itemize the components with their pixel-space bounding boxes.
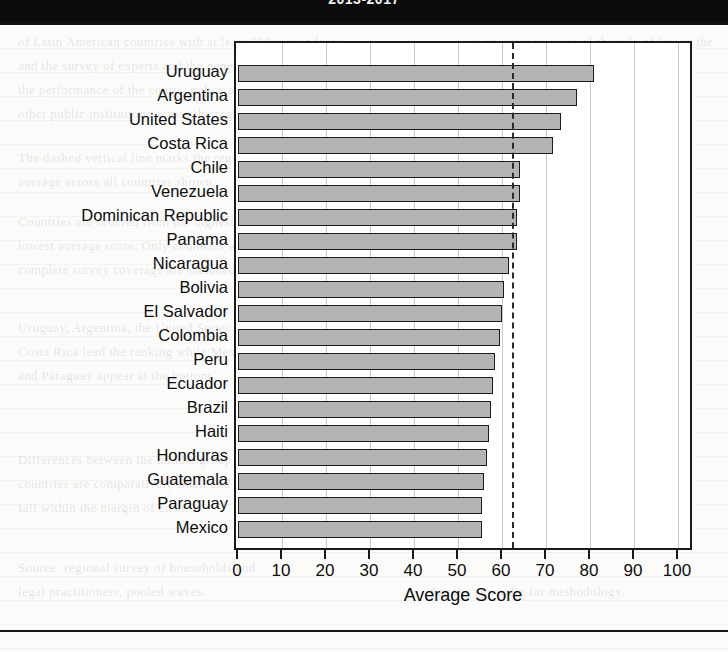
bar bbox=[238, 161, 520, 178]
category-label: Venezuela bbox=[151, 183, 228, 200]
bar bbox=[238, 209, 517, 226]
category-label: Peru bbox=[193, 351, 228, 368]
x-tick-label: 50 bbox=[448, 561, 467, 581]
x-tick-label: 10 bbox=[272, 561, 291, 581]
category-label: Panama bbox=[167, 231, 228, 248]
category-label: Argentina bbox=[157, 87, 228, 104]
gridline bbox=[634, 43, 635, 548]
category-label: Dominican Republic bbox=[81, 207, 228, 224]
chart-figure: UruguayArgentinaUnited StatesCosta RicaC… bbox=[0, 25, 728, 625]
x-tick-label: 100 bbox=[663, 561, 691, 581]
bar bbox=[238, 353, 495, 370]
category-label: Chile bbox=[190, 159, 228, 176]
bar bbox=[238, 473, 484, 490]
x-tick bbox=[324, 550, 326, 559]
x-tick bbox=[632, 550, 634, 559]
bar bbox=[238, 137, 553, 154]
category-label: Bolivia bbox=[179, 279, 228, 296]
category-label: Brazil bbox=[187, 399, 228, 416]
x-tick-label: 20 bbox=[316, 561, 335, 581]
bar bbox=[238, 449, 487, 466]
category-label: Guatemala bbox=[147, 471, 228, 488]
x-tick-label: 60 bbox=[492, 561, 511, 581]
category-label: Costa Rica bbox=[147, 135, 228, 152]
category-label: Uruguay bbox=[166, 63, 228, 80]
x-tick-label: 70 bbox=[536, 561, 555, 581]
x-tick bbox=[500, 550, 502, 559]
category-axis-labels: UruguayArgentinaUnited StatesCosta RicaC… bbox=[0, 41, 228, 550]
x-tick-label: 0 bbox=[232, 561, 241, 581]
bar bbox=[238, 257, 509, 274]
category-label: Paraguay bbox=[157, 495, 228, 512]
band-caption: 2013-2017 bbox=[0, 0, 728, 7]
gridline bbox=[590, 43, 591, 548]
plot-area bbox=[234, 41, 692, 550]
bar bbox=[238, 305, 502, 322]
category-label: El Salvador bbox=[144, 303, 228, 320]
x-tick bbox=[412, 550, 414, 559]
x-tick-label: 30 bbox=[360, 561, 379, 581]
x-tick bbox=[544, 550, 546, 559]
category-label: Haiti bbox=[195, 423, 228, 440]
x-tick bbox=[676, 550, 678, 559]
bottom-divider-rule bbox=[0, 630, 728, 632]
bar bbox=[238, 329, 500, 346]
gridline bbox=[678, 43, 679, 548]
x-tick-label: 40 bbox=[404, 561, 423, 581]
top-black-band: 2013-2017 bbox=[0, 0, 728, 22]
x-tick-label: 90 bbox=[624, 561, 643, 581]
category-label: Nicaragua bbox=[153, 255, 228, 272]
category-label: Mexico bbox=[176, 519, 228, 536]
x-tick bbox=[280, 550, 282, 559]
category-label: United States bbox=[129, 111, 228, 128]
x-axis-title: Average Score bbox=[234, 585, 692, 606]
bar bbox=[238, 281, 504, 298]
average-reference-line bbox=[512, 43, 514, 548]
x-tick bbox=[588, 550, 590, 559]
x-tick bbox=[236, 550, 238, 559]
bar bbox=[238, 497, 482, 514]
bar bbox=[238, 401, 491, 418]
x-tick-label: 80 bbox=[580, 561, 599, 581]
bar bbox=[238, 521, 482, 538]
category-label: Ecuador bbox=[167, 375, 228, 392]
bar bbox=[238, 65, 594, 82]
bar bbox=[238, 89, 577, 106]
bar bbox=[238, 425, 489, 442]
x-tick bbox=[456, 550, 458, 559]
bar bbox=[238, 233, 517, 250]
x-axis: 0102030405060708090100 bbox=[234, 550, 692, 590]
category-label: Honduras bbox=[156, 447, 228, 464]
bar bbox=[238, 185, 520, 202]
x-tick bbox=[368, 550, 370, 559]
category-label: Colombia bbox=[158, 327, 228, 344]
bar bbox=[238, 377, 493, 394]
